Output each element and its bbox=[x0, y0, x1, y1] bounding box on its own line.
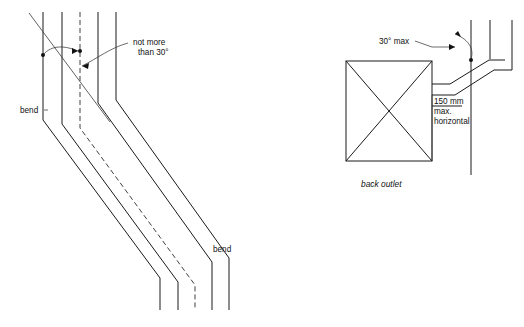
diagram-canvas: not more than 30° bend bend bbox=[0, 0, 524, 327]
dimension-label-line1: 150 mm bbox=[434, 97, 464, 106]
back-outlet-caption: back outlet bbox=[361, 179, 402, 189]
note-leader-line bbox=[82, 43, 128, 66]
bend-vertex-dot-center bbox=[78, 49, 82, 53]
angle-note-leader-diagonal bbox=[415, 41, 432, 47]
left-angle-note-line2: than 30° bbox=[138, 48, 169, 57]
sloped-branch-lower-edge bbox=[455, 70, 494, 95]
angle-note-leader-arrowhead bbox=[449, 44, 455, 50]
dimension-label-line3: horizontal bbox=[434, 117, 470, 126]
right-angle-note: 30° max bbox=[379, 37, 409, 46]
sloped-branch-upper-edge bbox=[450, 60, 489, 84]
bend-label-bottom: bend bbox=[213, 245, 232, 254]
angle-arc-right bbox=[455, 34, 472, 59]
left-diagram-group: not more than 30° bend bend bbox=[20, 12, 232, 310]
dimension-label-line2: max. bbox=[434, 107, 452, 116]
bend-label-top: bend bbox=[20, 106, 39, 115]
angle-arc-arrowhead bbox=[72, 48, 78, 54]
left-angle-note-line1: not more bbox=[133, 38, 166, 47]
angle-arc-right-arrowhead bbox=[455, 31, 461, 37]
technical-drawing-svg: not more than 30° bend bend bbox=[0, 0, 524, 327]
right-diagram-group: 30° max 150 mm max. horizontal back outl… bbox=[346, 20, 512, 189]
